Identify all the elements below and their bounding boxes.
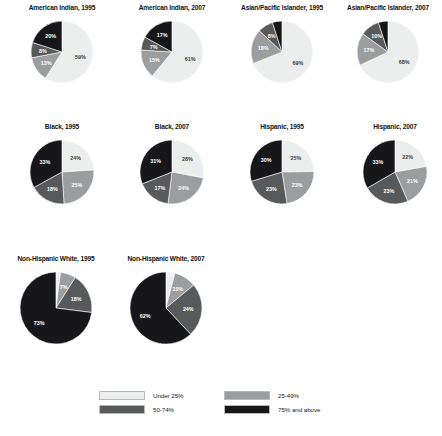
pie-svg: 28%24%17%31% bbox=[137, 137, 207, 207]
pie-panel: Hispanic, 200722%21%23%33% bbox=[340, 122, 442, 207]
pie-slice-label: 10% bbox=[173, 286, 184, 292]
pie-panel: Non-Hispanic White, 19952%7%18%73% bbox=[1, 254, 111, 347]
pie-slice-label: 5% bbox=[378, 18, 386, 19]
pie-wrap: 68%17%10%5% bbox=[333, 18, 442, 86]
legend-item-under-25: Under 25% bbox=[99, 391, 224, 400]
pie-slice-label: 73% bbox=[34, 320, 45, 326]
pie-svg: 2%7%18%73% bbox=[17, 269, 95, 347]
pie-slice-label: 18% bbox=[258, 45, 269, 51]
pie-slice-label: 25% bbox=[71, 182, 82, 188]
legend-swatch-75-and-above bbox=[224, 405, 270, 414]
pie-slice-label: 24% bbox=[183, 306, 194, 312]
pie-wrap: 2%7%18%73% bbox=[1, 269, 111, 347]
legend-item-25-49: 25-49% bbox=[224, 391, 349, 400]
pie-svg: 25%23%23%30% bbox=[247, 137, 317, 207]
pie-panel: American Indian, 200761%15%7%17% bbox=[117, 3, 227, 86]
pie-slice-label: 61% bbox=[185, 56, 196, 62]
pie-slice-label: 17% bbox=[363, 47, 374, 53]
pie-slice-label: 31% bbox=[150, 158, 161, 164]
pie-slice-label: 7% bbox=[150, 44, 158, 50]
pie-slice-label: 13% bbox=[41, 60, 52, 66]
pie-svg: 68%17%10%5% bbox=[354, 18, 422, 86]
pie-slice-label: 22% bbox=[402, 154, 413, 160]
pie-slice-label: 15% bbox=[149, 57, 160, 63]
pie-slice-label: 33% bbox=[372, 159, 383, 165]
pie-slice-label: 10% bbox=[371, 33, 382, 39]
pie-slice-label: 25% bbox=[291, 155, 302, 161]
pie-panel-title: Asian/Pacific Islander, 1995 bbox=[227, 3, 337, 12]
pie-panel: Asian/Pacific Islander, 199569%18%8%5% bbox=[227, 3, 337, 86]
pie-panel-title: Non-Hispanic White, 1995 bbox=[1, 254, 111, 263]
pie-panel: Non-Hispanic White, 20074%10%24%62% bbox=[111, 254, 221, 347]
legend-row: 50-74% 75% and above bbox=[99, 405, 349, 414]
pie-slice-label: 33% bbox=[40, 159, 51, 165]
pie-wrap: 61%15%7%17% bbox=[117, 18, 227, 86]
pie-panel-title: Hispanic, 1995 bbox=[227, 122, 337, 131]
pie-slice-label: 20% bbox=[45, 33, 56, 39]
legend-label-75-and-above: 75% and above bbox=[278, 406, 320, 413]
legend-swatch-50-74 bbox=[99, 405, 145, 414]
pie-slice-label: 23% bbox=[266, 186, 277, 192]
pie-panel: Black, 199524%25%18%33% bbox=[7, 122, 117, 207]
pie-slice-label: 59% bbox=[75, 54, 86, 60]
pie-svg: 61%15%7%17% bbox=[138, 18, 206, 86]
pie-slice-label: 24% bbox=[70, 155, 81, 161]
pie-svg: 59%13%8%20% bbox=[28, 18, 96, 86]
pie-chart-figure: American Indian, 199559%13%8%20%American… bbox=[0, 0, 442, 436]
pie-svg: 4%10%24%62% bbox=[127, 269, 205, 347]
pie-slice-label: 18% bbox=[47, 186, 58, 192]
legend: Under 25% 25-49% 50-74% 75% and above bbox=[99, 391, 349, 419]
pie-panel-title: Hispanic, 2007 bbox=[340, 122, 442, 131]
pie-slice-label: 62% bbox=[140, 313, 151, 319]
pie-slice-label: 17% bbox=[157, 32, 168, 38]
pie-panel-title: Black, 2007 bbox=[117, 122, 227, 131]
pie-panel-title: Black, 1995 bbox=[7, 122, 117, 131]
legend-label-under-25: Under 25% bbox=[153, 392, 184, 399]
pie-panel: American Indian, 199559%13%8%20% bbox=[7, 3, 117, 86]
pie-wrap: 28%24%17%31% bbox=[117, 137, 227, 207]
pie-slice-label: 8% bbox=[39, 48, 47, 54]
legend-label-50-74: 50-74% bbox=[153, 406, 174, 413]
pie-slice-label: 7% bbox=[60, 284, 68, 290]
pie-slice-label: 23% bbox=[292, 182, 303, 188]
pie-wrap: 25%23%23%30% bbox=[227, 137, 337, 207]
pie-slice-label: 21% bbox=[407, 178, 418, 184]
pie-slice-label: 23% bbox=[383, 188, 394, 194]
pie-wrap: 4%10%24%62% bbox=[111, 269, 221, 347]
pie-slice-label: 8% bbox=[268, 33, 276, 39]
pie-slice-label: 69% bbox=[293, 60, 304, 66]
pie-svg: 69%18%8%5% bbox=[248, 18, 316, 86]
pie-wrap: 24%25%18%33% bbox=[7, 137, 117, 207]
pie-svg: 24%25%18%33% bbox=[27, 137, 97, 207]
legend-item-50-74: 50-74% bbox=[99, 405, 224, 414]
pie-wrap: 22%21%23%33% bbox=[340, 137, 442, 207]
pie-slice-label: 30% bbox=[261, 157, 272, 163]
legend-swatch-25-49 bbox=[224, 391, 270, 400]
pie-panel-title: American Indian, 1995 bbox=[7, 3, 117, 12]
pie-slice-label: 5% bbox=[272, 18, 280, 19]
pie-wrap: 59%13%8%20% bbox=[7, 18, 117, 86]
pie-panel: Asian/Pacific Islander, 200768%17%10%5% bbox=[333, 3, 442, 86]
pie-panel-title: Asian/Pacific Islander, 2007 bbox=[333, 3, 442, 12]
pie-panel-title: American Indian, 2007 bbox=[117, 3, 227, 12]
legend-row: Under 25% 25-49% bbox=[99, 391, 349, 400]
legend-swatch-under-25 bbox=[99, 391, 145, 400]
pie-wrap: 69%18%8%5% bbox=[227, 18, 337, 86]
pie-panel: Hispanic, 199525%23%23%30% bbox=[227, 122, 337, 207]
legend-item-75-and-above: 75% and above bbox=[224, 405, 349, 414]
pie-slice-label: 17% bbox=[154, 185, 165, 191]
pie-slice-label: 18% bbox=[71, 296, 82, 302]
pie-panel-title: Non-Hispanic White, 2007 bbox=[111, 254, 221, 263]
pie-slice-label: 24% bbox=[178, 185, 189, 191]
pie-slice-label: 28% bbox=[182, 156, 193, 162]
legend-label-25-49: 25-49% bbox=[278, 392, 299, 399]
pie-slice-label: 68% bbox=[399, 59, 410, 65]
pie-panel: Black, 200728%24%17%31% bbox=[117, 122, 227, 207]
pie-svg: 22%21%23%33% bbox=[360, 137, 430, 207]
